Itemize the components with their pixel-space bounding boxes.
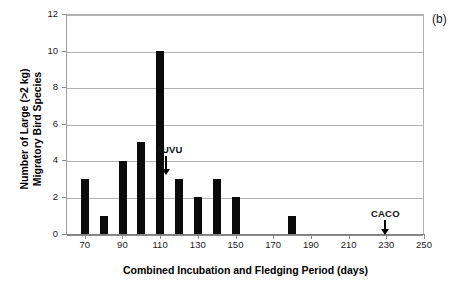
bar — [137, 142, 145, 234]
y-axis-title-line-1: Number of Large (>2 kg) — [18, 68, 31, 189]
x-axis-line — [66, 234, 425, 235]
y-tick-mark-0 — [62, 234, 66, 235]
x-tick-label-210: 210 — [332, 239, 366, 250]
y-tick-label-4: 4 — [36, 154, 58, 165]
y-tick-mark-10 — [62, 51, 66, 52]
y-tick-mark-8 — [62, 87, 66, 88]
histogram-figure: (b) Number of Large (>2 kg) Migratory Bi… — [0, 0, 469, 290]
y-tick-label-12: 12 — [36, 8, 58, 19]
x-axis-title: Combined Incubation and Fledging Period … — [0, 264, 469, 276]
x-tick-label-250: 250 — [407, 239, 441, 250]
gridline-6 — [67, 125, 423, 126]
x-axis-title-text: Combined Incubation and Fledging Period … — [101, 264, 368, 276]
gridline-12 — [67, 15, 423, 16]
bar — [119, 161, 127, 234]
y-axis-line — [66, 14, 67, 235]
y-tick-mark-2 — [62, 197, 66, 198]
x-tick-label-150: 150 — [219, 239, 253, 250]
bar — [232, 197, 240, 234]
gridline-8 — [67, 88, 423, 89]
y-tick-label-8: 8 — [36, 81, 58, 92]
annotation-label-tuvu: TUVU — [156, 144, 183, 155]
annotation-arrow-tuvu — [163, 156, 170, 175]
panel-letter: (b) — [432, 12, 447, 26]
x-tick-label-90: 90 — [105, 239, 139, 250]
x-tick-label-230: 230 — [369, 239, 403, 250]
annotation-arrow-caco — [382, 220, 389, 236]
x-tick-label-110: 110 — [143, 239, 177, 250]
x-tick-label-130: 130 — [181, 239, 215, 250]
gridline-10 — [67, 52, 423, 53]
y-tick-mark-12 — [62, 14, 66, 15]
bar — [288, 216, 296, 234]
bar — [156, 51, 164, 234]
y-tick-label-6: 6 — [36, 118, 58, 129]
y-tick-label-2: 2 — [36, 191, 58, 202]
bar — [175, 179, 183, 234]
bar — [100, 216, 108, 234]
y-tick-label-10: 10 — [36, 45, 58, 56]
bar — [213, 179, 221, 234]
y-tick-mark-4 — [62, 160, 66, 161]
y-tick-label-0: 0 — [36, 228, 58, 239]
annotation-label-caco: CACO — [371, 208, 400, 219]
x-tick-label-70: 70 — [68, 239, 102, 250]
x-tick-label-170: 170 — [256, 239, 290, 250]
bar — [81, 179, 89, 234]
bar — [194, 197, 202, 234]
x-tick-label-190: 190 — [294, 239, 328, 250]
y-tick-mark-6 — [62, 124, 66, 125]
